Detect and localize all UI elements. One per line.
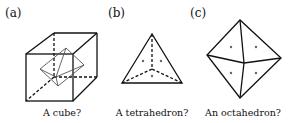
panel-a-caption: A cube?: [43, 108, 81, 118]
tetrahedron-face-dots: [142, 60, 162, 77]
cube-figure: [26, 33, 97, 101]
panel-b-caption: A tetrahedron?: [116, 108, 189, 118]
polyhedra-diagram: [0, 0, 292, 123]
panel-c-caption: An octahedron?: [205, 108, 281, 118]
octahedron-figure: [207, 20, 281, 98]
